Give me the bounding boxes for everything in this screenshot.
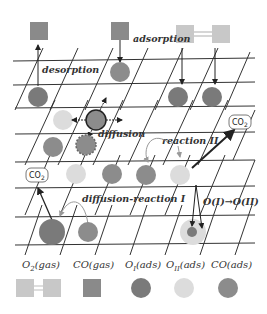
legend-co-gas-label: CO(gas) <box>73 259 114 270</box>
o-ii-ads-particle <box>66 164 86 184</box>
adsorption-label: adsorption <box>133 33 190 44</box>
o-i-ads-particle <box>28 87 48 107</box>
legend-o-i-icon <box>131 278 151 298</box>
surface-reaction-diagram: adsorption desorption diffusion reaction… <box>0 0 267 314</box>
diffusing-particle <box>86 110 106 130</box>
legend-o-i-label: OI(ads) <box>125 259 161 273</box>
diffusion-label: diffusion <box>98 128 145 139</box>
reaction-ii-label: reaction II <box>162 135 219 146</box>
o-i-ads-particle <box>168 87 188 107</box>
co2-product-right-icon: CO2 <box>229 115 251 129</box>
o-i-core-particle <box>187 227 197 237</box>
legend-o-ii-icon <box>174 278 194 298</box>
legend-co-gas-icon <box>83 279 101 297</box>
legend-co-ads-icon <box>218 278 238 298</box>
co-ads-particle <box>78 222 98 242</box>
legend-o2-gas-label: O2(gas) <box>22 259 60 273</box>
legend-o2-gas-icon <box>16 279 61 297</box>
diffusion-reaction-i-label: diffusion-reaction I <box>82 193 186 204</box>
o-i-ads-particle <box>202 87 222 107</box>
co2-product-left-icon: CO2 <box>26 168 48 182</box>
o-ii-ads-particle <box>170 165 190 185</box>
co-ads-particle <box>136 165 156 185</box>
legend-co-ads-label: CO(ads) <box>211 259 252 270</box>
diffusion-target-ghost <box>76 135 96 155</box>
merged-reaction-particle <box>39 219 65 245</box>
legend-o-ii-label: OII(ads) <box>166 259 205 273</box>
co-gas-desorbed-icon <box>30 22 48 40</box>
desorption-label: desorption <box>42 64 99 75</box>
o-ii-ads-particle <box>53 110 73 130</box>
legend: O2(gas) CO(gas) OI(ads) OII(ads) CO(ads) <box>16 259 252 298</box>
transition-label: O(I)→O(II) <box>203 196 259 207</box>
co-ads-particle <box>43 137 63 157</box>
co-gas-adsorbing-icon <box>111 22 129 40</box>
co-ads-particle <box>102 164 122 184</box>
co-ads-particle <box>110 62 130 82</box>
